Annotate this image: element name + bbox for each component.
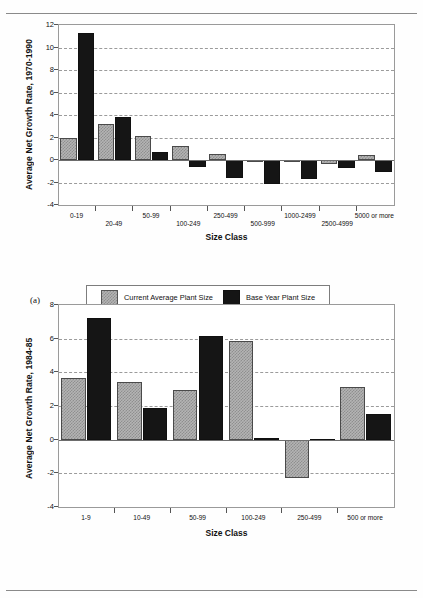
x-axis-tick-label: 0-19 xyxy=(70,212,83,219)
x-axis-tick-mark xyxy=(226,508,227,513)
bar-base-year-plant-size xyxy=(366,414,391,440)
figure-page: Average Net Growth Rate, 1970-1990 -4-20… xyxy=(0,0,423,598)
chart-a-x-axis-title: Size Class xyxy=(58,232,395,242)
x-axis-tick-mark xyxy=(244,206,245,211)
bar-base-year-plant-size xyxy=(87,318,112,440)
chart-a-x-axis: Size Class 0-1920-4950-99100-249250-4995… xyxy=(58,206,395,248)
x-axis-tick-mark xyxy=(132,206,133,211)
bar-current-average-plant-size xyxy=(229,341,254,439)
chart-a-plot-area: -4-2024681012 xyxy=(58,24,395,206)
bar-current-average-plant-size xyxy=(135,136,151,160)
chart-a-figure: Average Net Growth Rate, 1970-1990 -4-20… xyxy=(0,18,423,258)
chart-b-x-axis: Size Class 1-910-4950-99100-249250-49950… xyxy=(58,508,395,542)
x-axis-tick-mark xyxy=(170,206,171,211)
y-axis-tick-mark xyxy=(54,69,58,70)
top-divider-rule xyxy=(6,13,417,14)
x-axis-tick-label: 100-249 xyxy=(241,514,265,521)
x-axis-tick-mark xyxy=(319,206,320,211)
bar-current-average-plant-size xyxy=(61,378,86,439)
x-axis-tick-mark xyxy=(170,508,171,513)
y-axis-tick-mark xyxy=(54,92,58,93)
y-axis-tick-mark xyxy=(54,182,58,183)
bar-group xyxy=(59,305,115,507)
bar-group xyxy=(282,305,338,507)
x-axis-tick-mark xyxy=(281,206,282,211)
x-axis-tick-mark xyxy=(207,206,208,211)
x-axis-tick-label: 50-99 xyxy=(143,212,160,219)
x-axis-tick-label: 500-999 xyxy=(251,220,275,227)
x-axis-tick-label: 50-99 xyxy=(189,514,206,521)
bar-group xyxy=(59,25,96,205)
bar-group xyxy=(282,25,319,205)
bar-current-average-plant-size xyxy=(98,124,114,160)
bar-current-average-plant-size xyxy=(172,146,188,160)
x-axis-tick-label: 5000 or more xyxy=(355,212,394,219)
zero-axis-line xyxy=(59,160,394,161)
bar-group xyxy=(320,25,357,205)
zero-axis-line xyxy=(59,440,394,441)
y-axis-tick-mark xyxy=(54,405,58,406)
chart-b-plot-area: -4-202468 xyxy=(58,304,395,508)
x-axis-tick-mark xyxy=(114,508,115,513)
chart-b-y-axis-title: Average Net Growth Rate, 1984-85 xyxy=(24,308,34,508)
bar-group xyxy=(208,25,245,205)
bar-base-year-plant-size xyxy=(143,408,168,440)
bar-group xyxy=(171,25,208,205)
bar-group xyxy=(227,305,283,507)
x-axis-tick-mark xyxy=(281,508,282,513)
x-axis-tick-label: 1-9 xyxy=(81,514,91,521)
chart-b-figure: Average Net Growth Rate, 1984-85 -4-2024… xyxy=(0,300,423,575)
bottom-divider-rule xyxy=(6,590,417,591)
bar-group xyxy=(245,25,282,205)
bar-current-average-plant-size xyxy=(285,440,310,479)
bar-base-year-plant-size xyxy=(301,160,317,179)
bar-group xyxy=(357,25,394,205)
x-axis-tick-label: 2500-4999 xyxy=(321,220,353,227)
bar-group xyxy=(96,25,133,205)
y-axis-tick-mark xyxy=(54,472,58,473)
bar-base-year-plant-size xyxy=(199,336,224,440)
chart-b-plot xyxy=(58,304,395,508)
x-axis-tick-mark xyxy=(356,206,357,211)
chart-b-x-axis-title: Size Class xyxy=(58,528,395,538)
y-axis-tick-mark xyxy=(54,304,58,305)
bar-group xyxy=(115,305,171,507)
bar-base-year-plant-size xyxy=(338,160,354,168)
bar-base-year-plant-size xyxy=(264,160,280,184)
y-axis-tick-mark xyxy=(54,137,58,138)
y-axis-tick-mark xyxy=(54,159,58,160)
y-axis-tick-mark xyxy=(54,439,58,440)
x-axis-tick-label: 250-499 xyxy=(213,212,237,219)
x-axis-tick-label: 1000-2499 xyxy=(284,212,316,219)
bar-group xyxy=(171,305,227,507)
x-axis-tick-mark xyxy=(337,508,338,513)
bar-base-year-plant-size xyxy=(78,33,94,160)
y-axis-tick-mark xyxy=(54,24,58,25)
x-axis-tick-label: 10-49 xyxy=(133,514,150,521)
bar-base-year-plant-size xyxy=(152,152,168,160)
bar-current-average-plant-size xyxy=(173,390,198,440)
y-axis-tick-mark xyxy=(54,47,58,48)
bar-group xyxy=(338,305,394,507)
y-axis-tick-mark xyxy=(54,114,58,115)
y-axis-tick-mark xyxy=(54,371,58,372)
x-axis-tick-label: 500 or more xyxy=(347,514,383,521)
x-axis-tick-label: 20-49 xyxy=(105,220,122,227)
bar-base-year-plant-size xyxy=(115,117,131,160)
bar-current-average-plant-size xyxy=(60,138,76,161)
y-axis-tick-mark xyxy=(54,506,58,507)
chart-a-plot xyxy=(58,24,395,206)
bar-base-year-plant-size xyxy=(375,160,391,172)
x-axis-tick-mark xyxy=(95,206,96,211)
bar-current-average-plant-size xyxy=(117,382,142,440)
y-axis-tick-mark xyxy=(54,204,58,205)
bar-current-average-plant-size xyxy=(340,387,365,440)
bar-base-year-plant-size xyxy=(226,160,242,178)
x-axis-tick-label: 250-499 xyxy=(297,514,321,521)
bar-base-year-plant-size xyxy=(189,160,205,167)
y-axis-tick-mark xyxy=(54,338,58,339)
chart-a-y-axis-title: Average Net Growth Rate, 1970-1990 xyxy=(24,30,34,200)
bar-group xyxy=(133,25,170,205)
x-axis-tick-label: 100-249 xyxy=(176,220,200,227)
